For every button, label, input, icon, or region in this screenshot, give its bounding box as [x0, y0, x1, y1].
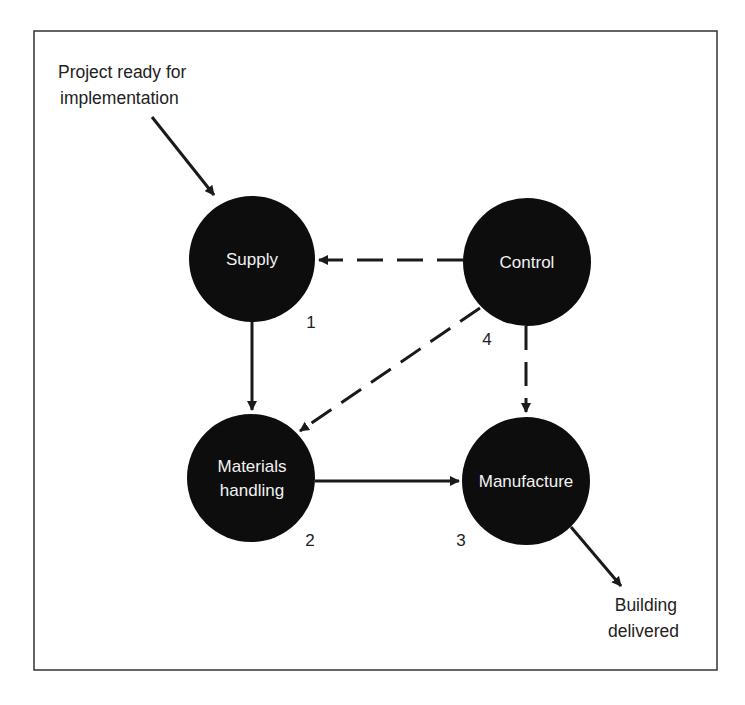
input-label-line2: implementation [60, 88, 179, 108]
input-label-line1: Project ready for [58, 62, 187, 82]
input-label: Project ready for implementation [58, 62, 187, 108]
edge-control-to-materials-dashed [300, 308, 480, 431]
node-manufacture: Manufacture 3 [456, 417, 590, 550]
edge-manufacture-to-output [571, 527, 621, 586]
control-label: Control [500, 253, 555, 272]
node-supply: Supply 1 [189, 196, 316, 332]
manufacture-label: Manufacture [479, 472, 574, 491]
supply-label: Supply [226, 250, 278, 269]
manufacture-number: 3 [456, 531, 465, 550]
process-diagram: Supply 1 Materials handling 2 Manufactur… [0, 0, 745, 705]
control-number: 4 [482, 330, 491, 349]
output-label-line1: Building [615, 595, 677, 615]
supply-number: 1 [306, 313, 315, 332]
node-materials-handling: Materials handling 2 [187, 414, 315, 550]
materials-label-line1: Materials [218, 457, 287, 476]
materials-label-line2: handling [220, 481, 284, 500]
output-label: Building delivered [608, 595, 679, 641]
diagram-frame [34, 31, 717, 670]
materials-circle [187, 414, 315, 542]
materials-number: 2 [305, 531, 314, 550]
output-label-line2: delivered [608, 621, 679, 641]
edge-input-to-supply [152, 117, 214, 195]
